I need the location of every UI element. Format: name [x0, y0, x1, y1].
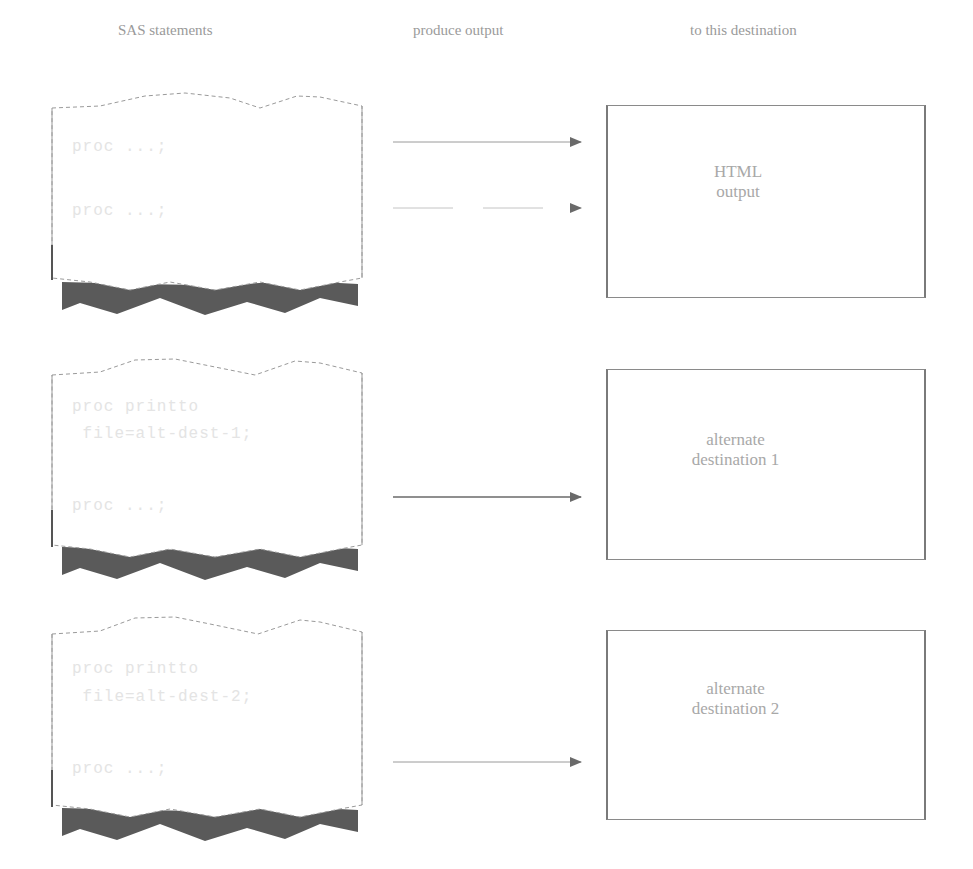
- page-body: [52, 93, 362, 290]
- destination-label-line: destination 1: [643, 450, 828, 470]
- code-line: proc ...;: [72, 138, 167, 156]
- page-body: [52, 359, 362, 557]
- destination-box-alt-1: alternate destination 1: [606, 369, 926, 560]
- code-line: proc ...;: [72, 497, 167, 515]
- code-line: file=alt-dest-1;: [72, 425, 252, 443]
- destination-label: alternate destination 2: [643, 679, 828, 719]
- destination-label-line: alternate: [643, 679, 828, 699]
- code-line: proc printto: [72, 660, 199, 678]
- code-line: proc ...;: [72, 202, 167, 220]
- page-body: [52, 617, 362, 817]
- code-page-2: [52, 359, 362, 580]
- destination-label-line: output: [688, 182, 788, 202]
- destination-label: HTML output: [688, 162, 788, 202]
- code-line: proc ...;: [72, 760, 167, 778]
- destination-label-line: HTML: [688, 162, 788, 182]
- destination-label: alternate destination 1: [643, 430, 828, 470]
- destination-label-line: destination 2: [643, 699, 828, 719]
- destination-box-html: HTML output: [606, 105, 926, 298]
- code-page-3: [52, 617, 362, 841]
- destination-label-line: alternate: [643, 430, 828, 450]
- code-line: proc printto: [72, 398, 199, 416]
- destination-box-alt-2: alternate destination 2: [606, 630, 926, 820]
- code-line: file=alt-dest-2;: [72, 688, 252, 706]
